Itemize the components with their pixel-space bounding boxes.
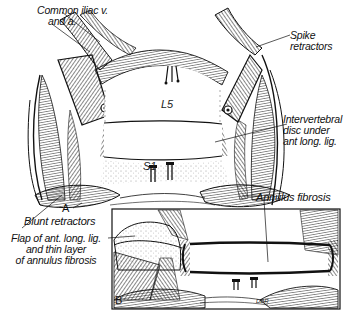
label-blunt-retractors: Blunt retractors <box>24 216 95 227</box>
surgical-illustration: Common iliac v. and a. Spike retractors … <box>0 0 346 324</box>
label-common-iliac: Common iliac v. and a. <box>4 5 108 27</box>
panel-b-letter: B <box>115 294 122 306</box>
label-annulus-fibrosis: Annulus fibrosis <box>256 192 330 203</box>
panel-b-drawing <box>108 200 340 309</box>
label-flap-line3: of annulus fibrosis <box>2 255 110 266</box>
label-flap: Flap of ant. long. lig. and thin layer o… <box>2 233 110 266</box>
panel-a-drawing <box>22 8 290 228</box>
label-spike-retractors: Spike retractors <box>290 30 332 52</box>
label-spike-line2: retractors <box>290 41 332 52</box>
label-disc-line3: ant long. lig. <box>283 136 342 147</box>
label-common-iliac-line2: and a. <box>4 16 108 27</box>
label-annulus-text: Annulus fibrosis <box>256 191 330 203</box>
panel-a-letter: A <box>62 202 69 214</box>
vertebra-s1-label: S1 <box>143 160 156 172</box>
artist-signature: DBR <box>256 298 269 304</box>
label-intervertebral-disc: Intervertebral disc under ant long. lig. <box>283 114 342 147</box>
vertebra-l5-label: L5 <box>161 98 173 110</box>
label-blunt-text: Blunt retractors <box>24 215 95 227</box>
